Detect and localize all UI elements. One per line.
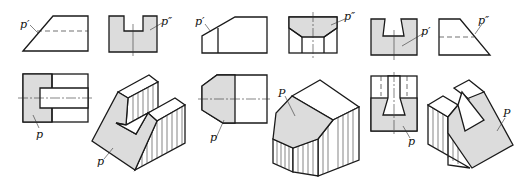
label-p-b4: P bbox=[277, 87, 286, 100]
label-p-double-prime-4: p″ bbox=[344, 10, 356, 23]
view-b6-isometric-dovetail: P bbox=[428, 80, 513, 168]
technical-drawing: p′ p″ p′ p″ p′ p″ bbox=[0, 0, 530, 180]
view-5-dovetail-slot: p′ bbox=[371, 19, 431, 60]
label-p-b2: p bbox=[97, 155, 104, 168]
view-b1-top-shaded: p bbox=[18, 74, 92, 141]
view-1-front-trapezoid: p′ bbox=[20, 16, 88, 51]
label-p-double-prime-6: p″ bbox=[478, 14, 490, 27]
view-b3-top-chamfered: p bbox=[198, 75, 270, 144]
view-b4-isometric-chamfered: P bbox=[273, 80, 359, 176]
view-6-slanted-right: p″ bbox=[439, 14, 490, 55]
label-p-prime-1: p′ bbox=[20, 18, 30, 31]
label-p-b5: p bbox=[408, 135, 415, 148]
view-4-side-trapezoid: p″ bbox=[289, 10, 356, 58]
view-3-front-chamfer: p′ bbox=[195, 15, 267, 53]
label-p-b6: P bbox=[502, 107, 511, 120]
view-b5-side-dovetail: p bbox=[371, 72, 417, 148]
view-2-side-u-shape: p″ bbox=[109, 15, 173, 56]
label-p-double-prime-2: p″ bbox=[161, 15, 173, 28]
label-p-prime-3: p′ bbox=[195, 15, 205, 28]
view-b2-isometric-v-block: p bbox=[92, 75, 185, 170]
label-p-b1: p bbox=[36, 128, 43, 141]
label-p-b3: p bbox=[210, 131, 217, 144]
label-p-prime-5: p′ bbox=[421, 25, 431, 38]
